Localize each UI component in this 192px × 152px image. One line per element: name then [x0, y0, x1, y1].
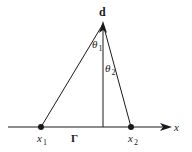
angle-theta2-subscript: 2	[111, 68, 115, 77]
angle-theta2-symbol: θ	[105, 62, 110, 74]
point-x1-dot	[38, 124, 44, 130]
point-x2-subscript: 2	[134, 138, 138, 147]
point-x2-label: x2	[128, 133, 138, 147]
angle-theta1-label: θ1	[92, 39, 102, 53]
diagram-canvas: d θ1 θ2 x x1 Γ x2	[0, 0, 192, 152]
x-axis-label: x	[174, 122, 179, 133]
point-x2-symbol: x	[128, 132, 133, 144]
point-x2-dot	[128, 124, 134, 130]
apex-label: d	[99, 6, 106, 18]
angle-theta1-symbol: θ	[92, 38, 97, 50]
angle-theta1-subscript: 1	[98, 44, 102, 53]
geometry	[0, 0, 192, 152]
curve-gamma-label: Γ	[71, 133, 78, 144]
point-x1-label: x1	[37, 133, 47, 147]
angle-theta2-label: θ2	[105, 63, 115, 77]
point-x1-subscript: 1	[43, 138, 47, 147]
point-x1-symbol: x	[37, 132, 42, 144]
